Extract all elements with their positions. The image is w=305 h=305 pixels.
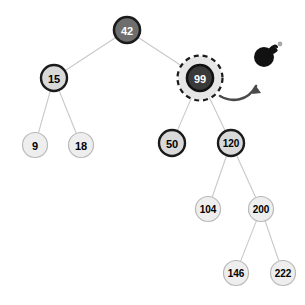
node-label-200: 200 (253, 204, 270, 215)
node-label-104: 104 (200, 204, 217, 215)
tree-node-9[interactable]: 9 (23, 133, 48, 158)
tree-node-200[interactable]: 200 (249, 197, 274, 222)
tree-node-146[interactable]: 146 (224, 261, 249, 286)
tree-edge-15-9 (39, 91, 51, 133)
tree-node-104[interactable]: 104 (196, 197, 221, 222)
node-label-9: 9 (32, 140, 38, 152)
binary-tree-diagram: 42159991850120104200146222 (0, 0, 305, 305)
node-label-146: 146 (228, 268, 245, 279)
tree-node-42[interactable]: 42 (114, 17, 140, 43)
tree-edge-15-18 (59, 91, 76, 133)
tree-edge-120-104 (212, 156, 226, 197)
tree-node-120[interactable]: 120 (218, 130, 244, 156)
node-label-120: 120 (223, 138, 240, 149)
tree-node-99[interactable]: 99 (187, 65, 213, 91)
bomb-spark-icon (278, 42, 283, 47)
node-label-42: 42 (121, 25, 133, 37)
node-label-18: 18 (75, 140, 87, 152)
tree-edge-42-15 (65, 37, 115, 70)
tree-node-18[interactable]: 18 (69, 133, 94, 158)
tree-node-222[interactable]: 222 (271, 261, 296, 286)
bomb-body-icon (254, 47, 274, 67)
annotation-layer (220, 42, 282, 100)
tree-edge-200-222 (265, 221, 279, 260)
tree-node-15[interactable]: 15 (41, 65, 67, 91)
tree-edge-200-146 (241, 221, 257, 261)
tree-edge-120-200 (237, 155, 256, 197)
node-label-222: 222 (275, 268, 292, 279)
node-label-15: 15 (48, 73, 60, 85)
delete-arrow-icon (220, 86, 256, 100)
node-label-50: 50 (166, 138, 178, 150)
node-label-99: 99 (194, 73, 206, 85)
tree-node-50[interactable]: 50 (159, 130, 185, 156)
